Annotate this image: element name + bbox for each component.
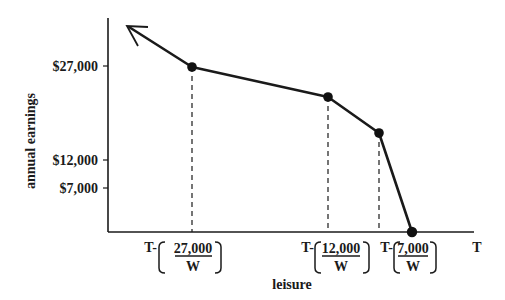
endpoint	[407, 227, 417, 237]
xtick-denominator: W	[186, 259, 200, 274]
xtick-numerator: 27,000	[174, 241, 213, 256]
xtick-numerator: 12,000	[322, 241, 361, 256]
ytick-label-7000: $7,000	[60, 181, 99, 196]
left-bracket	[159, 242, 165, 273]
kink-point-2	[323, 92, 333, 102]
x-axis-label: leisure	[272, 277, 311, 292]
budget-constraint-chart: $27,000 $12,000 $7,000 annual earnings T…	[0, 0, 505, 300]
right-bracket	[430, 242, 436, 273]
xtick-group-3: T- 7,000 W	[380, 240, 436, 274]
xtick-group-1: T- 27,000 W	[144, 240, 221, 274]
xtick-group-2: T- 12,000 W	[301, 240, 369, 274]
y-axis-label: annual earnings	[23, 92, 38, 189]
xtick-prefix: T-	[380, 240, 393, 255]
xtick-numerator: 7,000	[397, 241, 429, 256]
xtick-label-T: T	[472, 240, 482, 255]
ytick-label-27000: $27,000	[53, 59, 99, 74]
budget-line	[129, 27, 412, 232]
right-bracket	[363, 242, 369, 273]
xtick-prefix: T-	[301, 240, 314, 255]
xtick-denominator: W	[406, 259, 420, 274]
xtick-denominator: W	[334, 259, 348, 274]
ytick-label-12000: $12,000	[53, 153, 99, 168]
left-bracket	[315, 242, 321, 273]
kink-point-3	[374, 128, 384, 138]
kink-point-1	[187, 62, 197, 72]
xtick-prefix: T-	[144, 240, 157, 255]
right-bracket	[215, 242, 221, 273]
